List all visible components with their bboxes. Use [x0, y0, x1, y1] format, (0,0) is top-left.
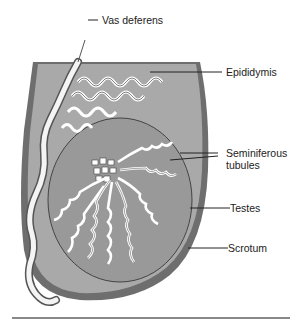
label-vas-deferens: Vas deferens — [102, 14, 163, 26]
label-epididymis: Epididymis — [226, 66, 277, 78]
label-scrotum: Scrotum — [228, 242, 267, 254]
bottom-rule — [12, 317, 290, 319]
label-tubules: tubules — [226, 159, 260, 171]
label-seminiferous: Seminiferous — [226, 147, 287, 159]
label-testes: Testes — [230, 202, 260, 214]
testis-diagram: Vas deferens Epididymis Seminiferous tub… — [0, 0, 300, 323]
